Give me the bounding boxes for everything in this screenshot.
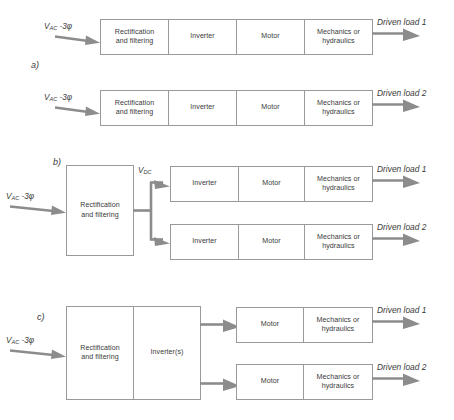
section-label-a: a): [31, 60, 39, 70]
input-signal-label-b: VAC -3φ: [6, 192, 34, 201]
diagram-canvas: a) VAC -3φ VAC -3φ Rectification and fil…: [0, 0, 454, 420]
section-b-rectification-box: [67, 166, 134, 256]
section-a-chain-2-input-arrow: [55, 107, 100, 117]
output-load-label-a2: Driven load 2: [377, 88, 426, 98]
section-c-shared-box: [67, 307, 201, 400]
vac-suffix: -3φ: [19, 192, 34, 201]
section-label-c: c): [37, 312, 45, 322]
section-b-branch-2-output-arrow: [372, 234, 420, 247]
section-c-branch-2-arrow: [200, 379, 240, 392]
output-load-label-b1: Driven load 1: [377, 164, 426, 174]
section-c-branch-1-boxes: [237, 308, 373, 343]
input-signal-label-c: VAC -3φ: [6, 336, 34, 345]
output-load-label-c2: Driven load 2: [377, 362, 426, 372]
vac-suffix: -3φ: [19, 336, 34, 345]
section-c-branch-1-arrow: [200, 320, 240, 333]
section-a-chain-1-output-arrow: [372, 29, 420, 42]
section-a-chain-2-output-arrow: [372, 100, 420, 113]
section-b-branch-1-output-arrow: [372, 176, 420, 189]
section-c-branch-2-output-arrow: [372, 374, 420, 387]
section-b-branch-1-boxes: [171, 167, 373, 202]
section-a-chain-1-input-arrow: [55, 36, 100, 46]
output-load-label-c1: Driven load 1: [377, 305, 426, 315]
section-c-input-arrow: [10, 350, 66, 360]
vac-suffix: -3φ: [57, 22, 72, 31]
output-load-label-b2: Driven load 2: [377, 222, 426, 232]
section-c-branch-2-boxes: [237, 365, 373, 400]
section-b-input-arrow: [10, 206, 66, 216]
section-a-chain-1-boxes: [101, 20, 373, 55]
section-b-dc-bus: [133, 183, 163, 240]
diagram-vector-layer: [0, 0, 454, 420]
section-c-branch-1-output-arrow: [372, 317, 420, 330]
input-signal-label-a2: VAC -3φ: [44, 93, 72, 102]
section-a-chain-2-boxes: [101, 91, 373, 126]
output-load-label-a1: Driven load 1: [377, 17, 426, 27]
section-label-b: b): [53, 157, 61, 167]
vdc-subscript: DC: [143, 169, 151, 175]
dc-bus-label-b: VDC: [138, 166, 152, 175]
section-b-branch-2-boxes: [171, 225, 373, 260]
input-signal-label-a1: VAC -3φ: [44, 22, 72, 31]
vac-suffix: -3φ: [57, 93, 72, 102]
